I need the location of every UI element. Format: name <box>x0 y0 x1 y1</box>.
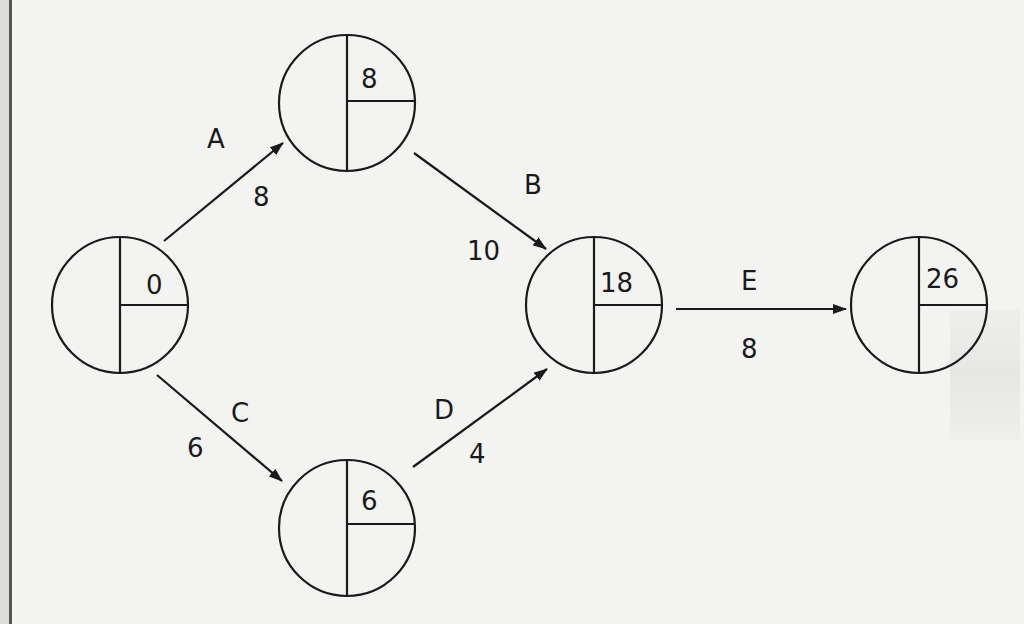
activity-duration-e: 8 <box>741 334 758 364</box>
activity-arrow-c <box>157 375 282 481</box>
event-node-2: 8 <box>279 35 415 171</box>
network-diagram: A 8 B 10 C 6 D 4 E 8 0 8 18 6 26 <box>0 0 1024 624</box>
activity-duration-b: 10 <box>467 236 500 266</box>
node-3-earliest-time: 18 <box>600 268 633 298</box>
activity-duration-a: 8 <box>253 182 270 212</box>
activity-label-d: D <box>434 395 454 425</box>
activity-label-b: B <box>524 170 542 200</box>
event-node-1: 0 <box>52 237 188 373</box>
activity-duration-c: 6 <box>187 433 204 463</box>
node-4-earliest-time: 6 <box>361 486 378 516</box>
activity-arrow-b <box>414 153 546 249</box>
event-node-4: 6 <box>279 460 415 596</box>
event-node-5: 26 <box>851 237 987 373</box>
node-1-earliest-time: 0 <box>146 270 163 300</box>
node-5-earliest-time: 26 <box>926 264 959 294</box>
activity-duration-d: 4 <box>469 439 486 469</box>
node-2-earliest-time: 8 <box>361 64 378 94</box>
activity-label-a: A <box>207 124 225 154</box>
activity-label-e: E <box>741 266 757 296</box>
activity-label-c: C <box>231 398 249 428</box>
event-node-3: 18 <box>526 237 662 373</box>
